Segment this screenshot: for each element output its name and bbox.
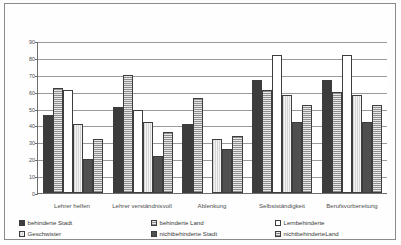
bar — [133, 110, 143, 193]
legend-swatch-icon — [19, 231, 25, 237]
bar — [302, 105, 312, 193]
bar — [73, 124, 83, 193]
legend-row-top: behinderte Stadt behinderte Land Lernbeh… — [19, 217, 391, 228]
bar — [113, 107, 123, 193]
x-axis-category-labels: Lehrer helfenLehrer verständnisvollAblen… — [37, 202, 387, 214]
bar — [352, 95, 362, 193]
legend-label: behinderte Stadt — [28, 219, 73, 226]
bar — [163, 132, 173, 193]
bar — [182, 124, 192, 193]
legend-swatch-icon — [19, 220, 25, 226]
bar-group-inner — [43, 42, 103, 193]
bar — [83, 159, 93, 193]
legend-item-nichtbehinderte-stadt: nichtbehinderte Stadt — [151, 228, 275, 239]
bar-group-inner — [182, 42, 242, 193]
bar — [262, 90, 272, 193]
y-axis-tickmark — [35, 194, 38, 195]
bar — [292, 122, 302, 193]
bar — [212, 139, 222, 193]
bar-group — [247, 42, 317, 193]
legend-item-nichtbehinderte-land: nichtbehinderteLand — [275, 228, 385, 239]
legend-label: behinderte Land — [160, 219, 204, 226]
bar — [63, 90, 73, 193]
bar — [372, 105, 382, 193]
chart-legend: behinderte Stadt behinderte Land Lernbeh… — [19, 217, 391, 241]
bar-group — [317, 42, 387, 193]
bar — [252, 80, 262, 193]
legend-swatch-icon — [275, 220, 281, 226]
bar — [272, 55, 282, 193]
legend-item-lernbehinderte: Lernbehinderte — [275, 217, 385, 228]
bar — [153, 156, 163, 193]
legend-item-behinderte-land: behinderte Land — [151, 217, 275, 228]
bar-group-inner — [252, 42, 312, 193]
x-axis-label: Ablenkung — [177, 202, 247, 214]
bar — [193, 98, 203, 193]
legend-label: nichtbehinderteLand — [284, 230, 339, 237]
bar — [43, 115, 53, 193]
bar — [282, 95, 292, 193]
legend-row-bottom: Geschwister nichtbehinderte Stadt nichtb… — [19, 228, 391, 239]
y-axis-tick-labels: 0102030405060708090 — [15, 42, 35, 194]
bar — [342, 55, 352, 193]
bar — [53, 88, 63, 193]
plot-area-wrapper: 0102030405060708090 — [15, 42, 387, 200]
bar-group — [38, 42, 108, 193]
chart-page: 0102030405060708090 Lehrer helfenLehrer … — [0, 0, 401, 245]
bar-group-inner — [113, 42, 173, 193]
bar — [93, 139, 103, 193]
x-axis-label: Selbstständigkeit — [247, 202, 317, 214]
legend-swatch-icon — [275, 231, 281, 237]
x-axis-label: Lehrer helfen — [37, 202, 107, 214]
bar — [143, 122, 153, 193]
legend-item-geschwister: Geschwister — [19, 228, 151, 239]
x-axis-label: Lehrer verständnisvoll — [107, 202, 177, 214]
bar — [123, 75, 133, 193]
plot-area — [37, 42, 387, 194]
legend-swatch-icon — [151, 220, 157, 226]
legend-swatch-icon — [151, 231, 157, 237]
bar-group-inner — [322, 42, 382, 193]
bar — [332, 92, 342, 193]
bar — [322, 80, 332, 193]
chart-frame: 0102030405060708090 Lehrer helfenLehrer … — [4, 3, 396, 240]
legend-label: nichtbehinderte Stadt — [160, 230, 218, 237]
bar — [232, 136, 242, 193]
bar — [222, 149, 232, 193]
x-axis-label: Berufsvorbereitung — [317, 202, 387, 214]
legend-label: Geschwister — [28, 230, 62, 237]
legend-label: Lernbehinderte — [284, 219, 325, 226]
bar — [362, 122, 372, 193]
legend-item-behinderte-stadt: behinderte Stadt — [19, 217, 151, 228]
bar-group — [178, 42, 248, 193]
bar-group — [108, 42, 178, 193]
bar-groups — [38, 42, 387, 193]
